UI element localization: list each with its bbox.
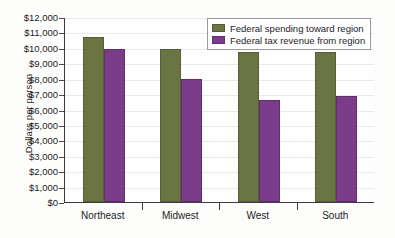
y-axis-tick-label: $3,000 <box>2 152 58 162</box>
y-axis-tick-label: $1,000 <box>2 183 58 193</box>
bar-revenue <box>181 79 202 202</box>
bar-spending <box>315 52 336 202</box>
y-axis-tick-label: $7,000 <box>2 90 58 100</box>
legend-item-revenue: Federal tax revenue from region <box>212 34 365 46</box>
x-axis-tick-mark <box>142 203 143 210</box>
bar-spending <box>238 52 259 202</box>
bar-revenue <box>104 49 125 202</box>
bar-chart: Dollars per person $12,000$11,000$10,000… <box>0 0 395 238</box>
y-axis-tick-label: $6,000 <box>2 106 58 116</box>
y-axis-tick-label: $4,000 <box>2 136 58 146</box>
y-axis-tick-label: $11,000 <box>2 28 58 38</box>
x-axis-tick-label: Northeast <box>81 210 124 221</box>
legend-swatch-spending-icon <box>212 24 225 32</box>
y-axis-tick-label: $5,000 <box>2 121 58 131</box>
y-axis-tick-label: $8,000 <box>2 75 58 85</box>
bar-revenue <box>336 96 357 202</box>
legend-item-spending: Federal spending toward region <box>212 22 365 34</box>
legend-label-revenue: Federal tax revenue from region <box>230 35 365 46</box>
bar-revenue <box>259 100 280 202</box>
bar-group <box>160 18 202 202</box>
x-axis-tick-label: West <box>246 210 269 221</box>
chart-legend: Federal spending toward region Federal t… <box>207 18 371 50</box>
bar-group <box>83 18 125 202</box>
x-axis-tick-mark <box>297 203 298 210</box>
y-axis-tick-labels: $12,000$11,000$10,000$9,000$8,000$7,000$… <box>0 0 58 238</box>
x-axis-tick-mark <box>219 203 220 210</box>
bar-spending <box>160 49 181 202</box>
legend-swatch-revenue-icon <box>212 36 225 44</box>
x-axis-tick-label: Midwest <box>162 210 199 221</box>
y-axis-tick-label: $12,000 <box>2 13 58 23</box>
x-axis-tick-labels: NortheastMidwestWestSouth <box>64 210 374 230</box>
y-axis-tick-label: $2,000 <box>2 167 58 177</box>
x-axis-tick-label: South <box>322 210 348 221</box>
bar-spending <box>83 37 104 202</box>
y-axis-tick-label: $10,000 <box>2 44 58 54</box>
legend-label-spending: Federal spending toward region <box>230 23 364 34</box>
y-axis-tick-label: $0 <box>2 198 58 208</box>
y-axis-tick-label: $9,000 <box>2 59 58 69</box>
